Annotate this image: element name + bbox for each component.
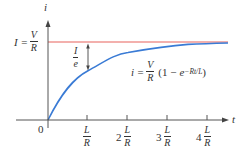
curve-equation: i = V R (1 − e −Rt/L ) [131, 60, 206, 83]
paren-open: (1 − [158, 66, 176, 78]
fraction-numerator: I [73, 46, 78, 58]
fraction-numerator: V [146, 60, 154, 72]
fraction-denominator: e [73, 58, 77, 69]
fraction-denominator: R [84, 137, 90, 148]
fraction-denominator: R [204, 137, 210, 148]
fraction-denominator: R [31, 42, 37, 53]
tick-label-1: L R [81, 125, 93, 148]
y-axis-label: i [44, 2, 47, 13]
fraction-numerator: L [83, 125, 91, 137]
gap-label: I e [73, 46, 78, 69]
fraction-denominator: R [147, 72, 153, 83]
x-axis-label: t [232, 114, 235, 125]
y-axis-arrow-icon [46, 20, 51, 27]
fraction-numerator: L [164, 125, 172, 137]
tick-fraction: L R [124, 125, 132, 148]
fraction-denominator: R [164, 137, 170, 148]
tick-coef: 4 [196, 131, 202, 143]
tick-label-4: 4 L R [196, 125, 213, 148]
fraction-numerator: L [124, 125, 132, 137]
curve-fraction: V R [146, 60, 154, 83]
tick-fraction: L R [164, 125, 172, 148]
asymptote-lhs: I = [14, 36, 28, 48]
fraction-numerator: V [30, 30, 38, 42]
tick-label-2: 2 L R [116, 125, 133, 148]
asymptote-fraction: V R [30, 30, 38, 53]
tick-fraction: L R [83, 125, 91, 148]
fraction-numerator: L [204, 125, 212, 137]
tick-label-3: 3 L R [156, 125, 173, 148]
x-axis-arrow-icon [222, 118, 229, 123]
asymptote-label: I = V R [14, 30, 40, 53]
curve-lhs: i = [131, 66, 144, 78]
origin-label: 0 [38, 124, 44, 135]
fraction-denominator: R [124, 137, 130, 148]
gap-arrow-up-icon [86, 44, 90, 49]
tick-fraction: L R [204, 125, 212, 148]
tick-coef: 3 [156, 131, 162, 143]
paren-close: ) [202, 66, 206, 78]
exp-exponent: −Rt/L [184, 67, 202, 76]
tick-coef: 2 [116, 131, 122, 143]
